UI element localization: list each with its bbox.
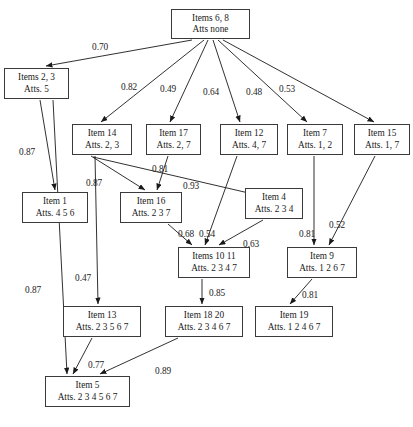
node-atts-label: Atts. 2 3 4 bbox=[255, 204, 294, 215]
node-atts-label: Atts. 4, 7 bbox=[232, 140, 266, 151]
edge-n0-n5 bbox=[218, 40, 307, 122]
edge-weight-label: 0.52 bbox=[329, 220, 345, 230]
node-items-label: Item 12 bbox=[235, 128, 264, 139]
graph-node-n1[interactable]: Items 2, 3Atts. 5 bbox=[4, 68, 69, 99]
edge-weight-label: 0.47 bbox=[75, 273, 91, 283]
edge-weight-label: 0.48 bbox=[246, 87, 262, 97]
node-items-label: Item 17 bbox=[159, 128, 188, 139]
graph-node-n0[interactable]: Items 6, 8Atts none bbox=[171, 9, 250, 39]
node-atts-label: Atts. 2 3 5 6 7 bbox=[76, 322, 129, 333]
node-atts-label: Atts. 2, 3 bbox=[85, 140, 119, 151]
node-items-label: Item 5 bbox=[75, 380, 99, 391]
node-items-label: Item 18 20 bbox=[184, 310, 224, 321]
edge-weight-label: 0.81 bbox=[302, 290, 318, 300]
graph-node-n6[interactable]: Item 15Atts. 1, 7 bbox=[354, 124, 410, 155]
edge-weight-label: 0.49 bbox=[160, 84, 176, 94]
graph-node-n13[interactable]: Item 18 20Atts. 2 3 4 6 7 bbox=[165, 306, 243, 337]
edge-weight-label: 0.54 bbox=[199, 229, 215, 239]
edge-n1-n7 bbox=[40, 100, 55, 190]
edge-n0-n6 bbox=[223, 40, 374, 122]
edge-weight-label: 0.53 bbox=[279, 84, 295, 94]
graph-node-n5[interactable]: Item 7Atts. 1, 2 bbox=[287, 124, 343, 155]
edge-n0-n4 bbox=[213, 40, 240, 122]
graph-node-n11[interactable]: Item 9Atts. 1 2 6 7 bbox=[287, 247, 357, 278]
node-items-label: Items 6, 8 bbox=[192, 13, 229, 24]
graph-node-n2[interactable]: Item 14Atts. 2, 3 bbox=[72, 124, 132, 155]
graph-node-n7[interactable]: Item 1Atts. 4 5 6 bbox=[22, 192, 88, 223]
node-items-label: Items 10 11 bbox=[192, 251, 236, 262]
edge-weight-label: 0.82 bbox=[121, 82, 137, 92]
edge-weight-label: 0.77 bbox=[88, 360, 104, 370]
node-atts-label: Atts. 2 3 4 5 6 7 bbox=[58, 392, 118, 403]
node-items-label: Item 16 bbox=[137, 196, 166, 207]
node-atts-label: Atts. 1, 7 bbox=[365, 140, 399, 151]
node-atts-label: Atts. 1 2 6 7 bbox=[299, 263, 345, 274]
graph-node-n4[interactable]: Item 12Atts. 4, 7 bbox=[220, 124, 278, 155]
node-items-label: Item 4 bbox=[262, 192, 286, 203]
node-items-label: Item 1 bbox=[43, 196, 67, 207]
edge-weight-label: 0.87 bbox=[86, 178, 102, 188]
graph-node-n12[interactable]: Item 13Atts. 2 3 5 6 7 bbox=[63, 306, 141, 337]
edge-weight-label: 0.63 bbox=[243, 239, 259, 249]
diagram-canvas: Items 6, 8Atts noneItems 2, 3Atts. 5Item… bbox=[0, 0, 413, 427]
graph-node-n10[interactable]: Items 10 11Atts. 2 3 4 7 bbox=[178, 247, 250, 278]
edge-weight-label: 0.81 bbox=[152, 164, 168, 174]
edge-weight-label: 0.70 bbox=[92, 42, 108, 52]
node-atts-label: Atts. 1, 2 bbox=[298, 140, 332, 151]
edge-weight-label: 0.93 bbox=[183, 181, 199, 191]
graph-node-n3[interactable]: Item 17Atts. 2, 7 bbox=[146, 124, 201, 155]
node-items-label: Items 2, 3 bbox=[18, 72, 55, 83]
edge-n6-n11 bbox=[329, 156, 375, 245]
edge-weight-label: 0.89 bbox=[155, 366, 171, 376]
node-atts-label: Atts. 2 3 7 bbox=[132, 208, 171, 219]
graph-node-n9[interactable]: Item 4Atts. 2 3 4 bbox=[245, 188, 303, 219]
graph-node-n14[interactable]: Item 19Atts. 1 2 4 6 7 bbox=[255, 306, 333, 337]
node-atts-label: Atts none bbox=[193, 24, 229, 35]
node-items-label: Item 13 bbox=[88, 310, 117, 321]
edge-weight-label: 0.87 bbox=[25, 285, 41, 295]
edge-weight-label: 0.68 bbox=[178, 229, 194, 239]
node-items-label: Item 9 bbox=[310, 251, 334, 262]
graph-node-n15[interactable]: Item 5Atts. 2 3 4 5 6 7 bbox=[45, 376, 130, 407]
node-items-label: Item 15 bbox=[368, 128, 397, 139]
node-atts-label: Atts. 1 2 4 6 7 bbox=[268, 322, 321, 333]
node-atts-label: Atts. 2 3 4 7 bbox=[191, 263, 237, 274]
node-items-label: Item 19 bbox=[280, 310, 309, 321]
edge-weight-label: 0.81 bbox=[299, 229, 315, 239]
node-atts-label: Atts. 2 3 4 6 7 bbox=[178, 322, 231, 333]
edge-weight-label: 0.85 bbox=[209, 288, 225, 298]
node-atts-label: Atts. 2, 7 bbox=[156, 140, 190, 151]
node-items-label: Item 14 bbox=[88, 128, 117, 139]
node-items-label: Item 7 bbox=[303, 128, 327, 139]
node-atts-label: Atts. 5 bbox=[24, 84, 49, 95]
edge-n0-n1 bbox=[46, 40, 192, 66]
graph-node-n8[interactable]: Item 16Atts. 2 3 7 bbox=[120, 192, 182, 223]
node-atts-label: Atts. 4 5 6 bbox=[36, 208, 75, 219]
edge-weight-label: 0.87 bbox=[19, 147, 35, 157]
edge-weight-label: 0.64 bbox=[203, 87, 219, 97]
